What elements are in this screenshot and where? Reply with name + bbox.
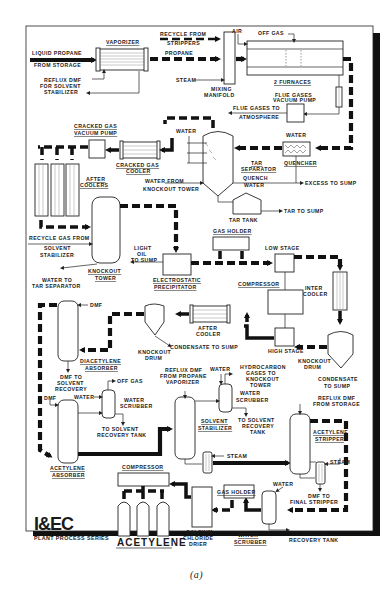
low-stage-label: LOW STAGE <box>265 245 300 251</box>
calcium-chloride-drier <box>192 487 212 527</box>
acetylene-stripper-label-2: STRIPPER <box>315 436 344 442</box>
dmf-label-2: DMF <box>44 395 56 401</box>
diacetylene-absorber <box>58 301 78 361</box>
compressor-2 <box>118 473 169 486</box>
quench-label: QUENCH <box>243 175 268 181</box>
water-label-5: WATER <box>273 481 293 487</box>
air-label: AIR <box>232 28 242 34</box>
quench-water-label: WATER <box>244 182 264 188</box>
iec-logo: I&EC <box>34 514 74 534</box>
figure-caption: (a) <box>190 569 203 581</box>
vacuum-pump-label: VACUUM PUMP <box>273 97 316 103</box>
water-scrubber-2 <box>219 384 232 412</box>
recycle-gas-label-3: STABILIZER <box>40 252 74 258</box>
vaporizer <box>96 48 148 71</box>
drum-label-a: DRUM <box>145 355 162 361</box>
to-solvent-label-2c: TANK <box>250 429 266 435</box>
flue-gases-vacuum-pump <box>287 104 304 122</box>
flue-gases-to-label: FLUE GASES TO <box>233 105 280 111</box>
cracked-gas-label: CRACKED GAS <box>74 123 117 129</box>
drier-label: DRIER <box>189 541 207 547</box>
water-scrubber-label-1b: SCRUBBER <box>120 403 153 409</box>
coolers-label: COOLERS <box>80 182 109 188</box>
atmosphere-label: ATMOSPHERE <box>239 114 279 120</box>
reflux-dmf-prop-label-3: VAPORIZER <box>166 379 199 385</box>
solvent-label-2: SOLVENT <box>201 418 228 424</box>
process-flow-diagram: LIQUID PROPANE FROM STORAGE VAPORIZER RE… <box>0 0 392 598</box>
electrostatic-label: ELECTROSTATIC <box>153 277 201 283</box>
tar-to-sump-label: TAR TO SUMP <box>284 208 324 214</box>
acetylene-cylinders <box>118 502 169 536</box>
recovery-label: RECOVERY <box>55 386 87 392</box>
steam-label-2: STEAM <box>227 453 247 459</box>
electrostatic-precipitator <box>163 254 191 275</box>
steam-label-3: STEAM <box>330 459 350 465</box>
stripper-reboiler <box>316 462 325 484</box>
absorber-label: ABSORBER <box>85 365 118 371</box>
propane-label: PROPANE <box>165 50 193 56</box>
recovery-tank-label-3b: RECOVERY TANK <box>289 537 339 543</box>
after-coolers <box>35 164 79 216</box>
acetylene-absorber <box>58 400 78 463</box>
acetylene-product-label: ACETYLENE <box>117 537 187 548</box>
water-label-3: WATER <box>74 394 94 400</box>
mixing-manifold <box>224 32 235 84</box>
steam-label-1: STEAM <box>176 77 196 83</box>
to-sump-label-b: TO SUMP <box>324 383 350 389</box>
water-label-1: WATER <box>176 128 196 134</box>
water-scrubber-label-2b: SCRUBBER <box>236 397 269 403</box>
tar-separator-label-2: TAR SEPARATOR <box>32 283 81 289</box>
tower-label: TOWER <box>95 275 116 281</box>
knockout-label: KNOCKOUT <box>88 268 122 274</box>
condensate-label-a: CONDENSATE TO SUMP <box>170 344 238 350</box>
diacetylene-label: DIACETYLENE <box>80 358 121 364</box>
plant-process-series-label: PLANT PROCESS SERIES <box>34 535 109 541</box>
excess-to-sump-label: EXCESS TO SUMP <box>305 180 357 186</box>
off-gas-label-2: OFF GAS <box>117 378 143 384</box>
knockout-tower-label: KNOCKOUT TOWER <box>143 186 199 192</box>
stabilizer-label: STABILIZER <box>198 425 232 431</box>
precipitator-label: PRECIPITATOR <box>154 284 197 290</box>
inter-cooler-label: COOLER <box>303 291 328 297</box>
final-stripper-label: FINAL STRIPPER <box>290 499 338 505</box>
from-storage-label: FROM STORAGE <box>34 62 81 68</box>
water-scrubber-1 <box>102 390 115 418</box>
hydrocarbon-label-4: TOWER <box>250 382 271 388</box>
water-scrubber-3 <box>262 491 276 524</box>
water-from-label: WATER FROM <box>145 178 184 184</box>
acetylene-absorber-label-1: ACETYLENE <box>50 465 85 471</box>
quencher <box>283 142 310 156</box>
water-scrubber-label-3b: SCRUBBER <box>234 539 267 545</box>
knockout-tower <box>92 197 120 263</box>
recycle-from-label: RECYCLE FROM <box>160 31 206 37</box>
reflux-storage-label-2: FROM STORAGE <box>313 401 360 407</box>
furnaces-label: 2 FURNACES <box>274 79 311 85</box>
gas-holder-label-1: GAS HOLDER <box>213 228 252 234</box>
condensate-label-b: CONDENSATE <box>318 376 358 382</box>
water-label-4: WATER <box>210 366 230 372</box>
vacuum-pump-label-2: VACUUM PUMP <box>74 130 117 136</box>
reflux-dmf-label-3: STABILIZER <box>44 89 78 95</box>
separator-label: SEPARATOR <box>241 166 276 172</box>
water-label-2: WATER <box>286 132 306 138</box>
off-gas-label-1: OFF GAS <box>258 30 284 36</box>
liquid-propane-label: LIQUID PROPANE <box>32 50 82 56</box>
quencher-label: QUENCHER <box>284 160 317 166</box>
acetylene-absorber-label-2: ABSORBER <box>52 472 85 478</box>
acetylene-stripper-label-1: ACETYLENE <box>313 429 348 435</box>
inter-cooler <box>333 272 347 310</box>
tar-tank-label: TAR TANK <box>229 217 258 223</box>
stabilizer-reboiler <box>203 452 212 473</box>
recovery-tank-label-1b: RECOVERY TANK <box>97 432 147 438</box>
strippers-label: STRIPPERS <box>167 40 200 46</box>
recycle-gas-label-1: RECYCLE GAS FROM <box>29 235 90 241</box>
gas-holder-label-2: GAS HOLDER <box>217 489 256 495</box>
to-solvent-label-3a: TO SOLVENT <box>292 530 329 536</box>
solvent-stabilizer <box>175 397 195 459</box>
tar-separator <box>203 132 233 197</box>
cooler-label: COOLER <box>126 168 151 174</box>
water-scrubber-label-2a: WATER <box>240 390 260 396</box>
drum-label-b: DRUM <box>304 364 321 370</box>
flue-gases-cooler <box>336 87 342 107</box>
manifold-label: MANIFOLD <box>204 92 235 98</box>
